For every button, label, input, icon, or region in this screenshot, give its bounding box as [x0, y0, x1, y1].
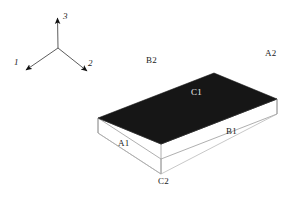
axis-1-label: 1 [14, 57, 19, 67]
label-a2: A2 [265, 48, 276, 58]
label-b1: B1 [226, 126, 237, 136]
slab-isometric-drawing [0, 0, 304, 202]
axis-2-label: 2 [88, 58, 93, 68]
label-a1: A1 [118, 138, 129, 148]
slab-face-c1-top [98, 73, 277, 144]
slab-body [98, 73, 277, 174]
coordinate-axes [26, 18, 87, 71]
axis-3-line [58, 18, 59, 48]
label-c1: C1 [191, 87, 202, 97]
figure-root: 1 2 3 B2 A2 C1 B1 A1 C2 [0, 0, 304, 202]
label-c2: C2 [158, 176, 169, 186]
axis-1-line [26, 48, 58, 70]
label-b2: B2 [146, 55, 157, 65]
axis-2-line [58, 48, 87, 71]
axis-3-label: 3 [63, 11, 68, 21]
